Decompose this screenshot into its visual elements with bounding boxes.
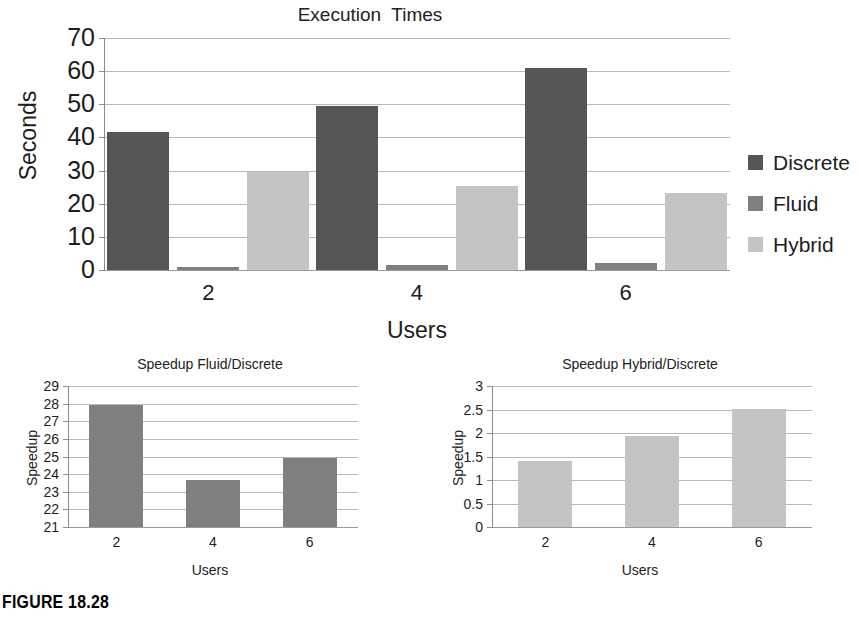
bar [177,267,239,270]
y-axis-tick [99,104,105,105]
speedup-hybrid-discrete-chart: Speedup Hybrid/Discrete Speedup Users 00… [430,352,850,587]
y-axis-tick-label: 23 [19,485,59,499]
y-axis-tick-label: 2 [443,426,483,440]
y-axis-tick-label: 50 [25,91,95,116]
x-axis-tick-label: 6 [705,534,812,550]
y-axis-tick [487,410,493,411]
bar [283,458,337,527]
x-axis-tick-label: 4 [165,534,262,550]
y-axis-tick [487,433,493,434]
plot-area [492,386,812,527]
bar [525,68,587,270]
plot-area [104,38,730,270]
bar [732,409,786,527]
y-axis-tick-label: 21 [19,520,59,534]
y-axis-tick-label: 30 [25,158,95,183]
bar [595,263,657,270]
chart-legend: DiscreteFluidHybrid [748,142,858,265]
y-axis-tick [99,71,105,72]
y-axis-tick [63,439,69,440]
legend-item-label: Hybrid [773,233,834,257]
x-axis-tick-label: 4 [313,280,522,306]
bar [107,132,169,270]
speedup-fluid-discrete-chart: Speedup Fluid/Discrete Speedup Users 212… [0,352,420,587]
gridline [492,527,812,528]
y-axis-tick-label: 70 [25,25,95,50]
legend-item[interactable]: Fluid [748,183,858,224]
gridline [492,386,812,387]
x-axis-tick-label: 2 [492,534,599,550]
y-axis-tick [63,492,69,493]
y-axis-tick [63,527,69,528]
x-axis-tick-label: 2 [104,280,313,306]
x-axis-tick-label: 6 [261,534,358,550]
bar [518,461,572,527]
y-axis-tick-label: 27 [19,414,59,428]
x-axis-title: Users [0,562,420,578]
y-axis-tick [63,474,69,475]
gridline [104,38,730,39]
y-axis-tick-label: 0 [25,257,95,282]
y-axis-tick-label: 2.5 [443,403,483,417]
gridline [104,137,730,138]
gridline [104,237,730,238]
gridline [104,171,730,172]
gridline [68,386,358,387]
bar [456,186,518,270]
y-axis-tick [487,480,493,481]
y-axis-tick-label: 1 [443,473,483,487]
y-axis-tick [63,509,69,510]
bar [665,193,727,270]
y-axis-tick [99,38,105,39]
y-axis-tick [487,457,493,458]
x-axis-tick-label: 2 [68,534,165,550]
gridline [104,104,730,105]
y-axis-tick-label: 24 [19,467,59,481]
y-axis-tick-label: 60 [25,58,95,83]
execution-times-chart: Execution Times Seconds Users 0102030405… [0,0,740,340]
y-axis-tick [487,527,493,528]
y-axis-tick [99,204,105,205]
y-axis-tick-label: 3 [443,379,483,393]
y-axis-tick [99,270,105,271]
y-axis-tick [487,386,493,387]
gridline [68,527,358,528]
chart-title: Speedup Fluid/Discrete [0,356,420,372]
legend-swatch-icon [748,155,763,170]
x-axis-tick-label: 6 [521,280,730,306]
gridline [104,270,730,271]
bar [386,265,448,270]
y-axis-tick-label: 26 [19,432,59,446]
y-axis-tick [99,171,105,172]
legend-swatch-icon [748,196,763,211]
y-axis-tick-label: 29 [19,379,59,393]
bar [316,106,378,270]
gridline [104,71,730,72]
y-axis-tick-label: 25 [19,450,59,464]
chart-title: Execution Times [200,4,540,26]
x-axis-tick-label: 4 [599,534,706,550]
y-axis-tick [99,137,105,138]
bar [247,172,309,270]
bar [625,436,679,527]
y-axis-tick-label: 1.5 [443,450,483,464]
legend-item-label: Discrete [773,151,850,175]
x-axis-title: Users [104,317,730,344]
y-axis-tick-label: 22 [19,502,59,516]
x-axis-title: Users [430,562,850,578]
y-axis-line [104,38,105,270]
legend-item[interactable]: Discrete [748,142,858,183]
chart-title: Speedup Hybrid/Discrete [430,356,850,372]
legend-item[interactable]: Hybrid [748,224,858,265]
figure-caption: FIGURE 18.28 [2,592,109,613]
y-axis-tick [63,457,69,458]
y-axis-tick-label: 28 [19,397,59,411]
y-axis-tick [99,237,105,238]
bar [186,480,240,527]
gridline [104,204,730,205]
legend-item-label: Fluid [773,192,819,216]
legend-swatch-icon [748,237,763,252]
plot-area [68,386,358,527]
y-axis-tick [63,421,69,422]
y-axis-tick-label: 0 [443,520,483,534]
